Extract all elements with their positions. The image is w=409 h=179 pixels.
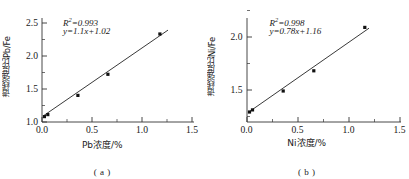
data-point (46, 113, 49, 116)
chart-panel-a: 谱线强度比Pb/Fe 2.5 2.0 1.5 1.0 (0, 0, 205, 179)
x-tick-label: 1.5 (186, 125, 198, 135)
x-axis-title-b: Ni浓度/% (205, 136, 409, 149)
data-point (76, 94, 79, 97)
chart-panel-b: 谱线强度比Ni/Fe 2.0 1.5 (205, 0, 409, 179)
x-tick-label: 0.5 (292, 125, 304, 135)
data-point (281, 89, 284, 92)
data-point (43, 115, 46, 118)
x-tick-label: 0.0 (241, 125, 253, 135)
regression-line (249, 28, 369, 112)
panel-caption-a: ( a ) (0, 167, 205, 177)
x-tick-label: 1.0 (136, 125, 148, 135)
x-tick-label: 0.0 (36, 125, 48, 135)
x-tick-label: 1.5 (394, 125, 406, 135)
equation-annotation-a: y=1.1x+1.02 (63, 26, 110, 38)
data-point (363, 26, 366, 29)
data-point (312, 69, 315, 72)
x-axis-title-a: Pb浓度/% (0, 138, 205, 151)
regression-line (44, 30, 168, 115)
equation-annotation-b: y=0.78x+1.16 (270, 26, 322, 38)
panel-caption-b: ( b ) (205, 167, 409, 177)
data-point (250, 108, 253, 111)
x-tick-label: 1.0 (343, 125, 355, 135)
figure-two-panel: 谱线强度比Pb/Fe 2.5 2.0 1.5 1.0 (0, 0, 409, 179)
x-axis-ticklabels-a: 0.0 0.5 1.0 1.5 (0, 125, 205, 139)
data-point (247, 110, 250, 113)
x-tick-label: 0.5 (86, 125, 98, 135)
data-point (106, 73, 109, 76)
data-point (158, 32, 161, 35)
